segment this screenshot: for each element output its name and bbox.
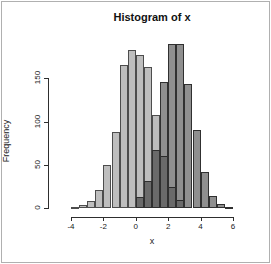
histogram-left-bar (71, 207, 79, 209)
plot-title: Histogram of x (48, 11, 256, 23)
x-tick-label: 2 (158, 222, 178, 231)
y-axis-line (48, 78, 49, 209)
x-tick-label: 6 (223, 222, 243, 231)
x-tick-label: 0 (126, 222, 146, 231)
histogram-left-bar (103, 165, 111, 208)
histogram-left-bar (136, 55, 144, 208)
x-tick (233, 217, 234, 221)
y-tick (44, 208, 48, 209)
x-tick-label: -2 (93, 222, 113, 231)
x-tick (168, 217, 169, 221)
y-tick (44, 165, 48, 166)
histogram-right-bar (225, 207, 233, 209)
x-axis-title: x (142, 236, 162, 246)
x-tick (201, 217, 202, 221)
y-tick (44, 122, 48, 123)
histogram-right-bar (184, 84, 192, 209)
histogram-left-bar (95, 190, 103, 208)
histogram-left-bar (128, 50, 136, 208)
x-tick (71, 217, 72, 221)
y-tick-label: 100 (33, 111, 42, 131)
histogram-right-bar (160, 82, 168, 208)
histogram-right-bar (209, 196, 217, 208)
y-tick-label: 50 (33, 155, 42, 175)
y-tick-label: 0 (33, 198, 42, 218)
y-tick (44, 78, 48, 79)
histogram-left-bar (120, 65, 128, 208)
histogram-right-bar (152, 150, 160, 208)
histogram-right-bar (217, 204, 225, 208)
histogram-right-bar (193, 130, 201, 208)
x-tick (136, 217, 137, 221)
histogram-right-bar (176, 44, 184, 209)
histogram-right-bar (201, 172, 209, 208)
histogram-right-bar (144, 181, 152, 208)
y-axis-title: Frequency (1, 111, 11, 171)
histogram-left-bar (112, 132, 120, 208)
histogram-right-bar (168, 44, 176, 209)
y-tick-label: 150 (33, 68, 42, 88)
histogram-right-bar (136, 197, 144, 208)
x-tick-label: 4 (191, 222, 211, 231)
histogram-plot: Histogram of x 050100150 -4-20246 Freque… (0, 0, 271, 264)
histogram-left-bar (79, 205, 87, 208)
x-tick (103, 217, 104, 221)
histogram-left-bar (87, 201, 95, 208)
x-tick-label: -4 (61, 222, 81, 231)
x-axis-line (71, 217, 234, 218)
